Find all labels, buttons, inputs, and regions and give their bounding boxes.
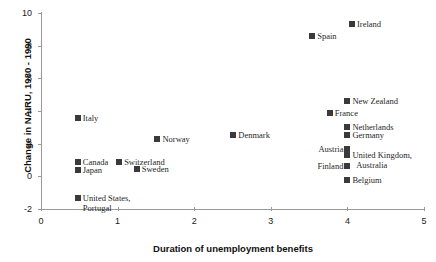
y-tick-mark — [38, 13, 42, 14]
x-tick-label: 0 — [31, 216, 51, 226]
data-point-label: Japan — [83, 166, 102, 176]
data-point-marker — [327, 110, 333, 116]
x-tick-label: 5 — [414, 216, 434, 226]
data-point-marker — [75, 115, 81, 121]
y-tick-mark — [38, 176, 42, 177]
data-point-marker — [349, 21, 355, 27]
data-point-label: Norway — [162, 135, 189, 145]
data-point-label: Ireland — [357, 20, 381, 30]
x-tick-label: 4 — [337, 216, 357, 226]
data-point-marker — [344, 163, 350, 169]
data-point-label: Belgium — [352, 176, 381, 186]
data-point-marker — [75, 159, 81, 165]
data-point-marker — [344, 146, 350, 152]
data-point-marker — [75, 195, 81, 201]
y-axis-title: Change in NAIRU, 1980 - 1990 — [22, 6, 33, 206]
scatter-chart: -20246810 012345 ItalyCanadaJapanUnited … — [0, 0, 436, 262]
data-point-marker — [134, 166, 140, 172]
data-point-label: Finland — [317, 162, 343, 172]
data-point-marker — [344, 152, 350, 158]
data-point-label: Austria — [318, 145, 343, 155]
data-point-label: United Kingdom, Australia — [352, 151, 412, 170]
x-tick-mark — [271, 207, 272, 211]
data-point-marker — [116, 159, 122, 165]
x-tick-mark — [41, 207, 42, 211]
x-tick-label: 3 — [261, 216, 281, 226]
data-point-marker — [154, 136, 160, 142]
x-axis-title: Duration of unemployment benefits — [41, 243, 425, 254]
data-point-marker — [309, 33, 315, 39]
x-tick-mark — [194, 207, 195, 211]
data-point-marker — [230, 132, 236, 138]
data-point-marker — [344, 177, 350, 183]
data-point-marker — [344, 132, 350, 138]
data-point-marker — [344, 98, 350, 104]
data-point-label: New Zealand — [352, 97, 398, 107]
data-point-label: France — [335, 109, 358, 119]
y-tick-mark — [38, 46, 42, 47]
y-tick-label: -2 — [10, 204, 32, 214]
x-tick-label: 2 — [184, 216, 204, 226]
data-point-label: Germany — [352, 131, 384, 141]
data-point-label: Denmark — [238, 131, 270, 141]
data-point-label: Sweden — [142, 165, 169, 175]
y-tick-mark — [38, 111, 42, 112]
x-tick-mark — [424, 207, 425, 211]
data-point-marker — [75, 167, 81, 173]
y-tick-mark — [38, 78, 42, 79]
y-tick-mark — [38, 144, 42, 145]
x-tick-label: 1 — [108, 216, 128, 226]
data-point-marker — [344, 124, 350, 130]
data-point-label: Spain — [317, 32, 336, 42]
x-tick-mark — [347, 207, 348, 211]
data-point-label: United States, Portugal — [83, 194, 131, 213]
data-point-label: Italy — [83, 114, 99, 124]
